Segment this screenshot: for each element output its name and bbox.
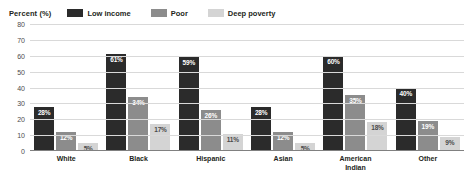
y-axis-tick: 60 — [17, 52, 25, 59]
bar: 18% — [367, 122, 387, 151]
bar-chart: Percent (%) Low incomePoorDeep poverty 2… — [0, 0, 470, 183]
grid-line — [30, 24, 464, 25]
y-axis-tick: 50 — [17, 68, 25, 75]
bar-value-label: 5% — [78, 145, 98, 152]
category-label: Asian — [247, 155, 319, 172]
bar: 17% — [150, 124, 170, 151]
legend-item: Low income — [67, 9, 130, 18]
legend-swatch-2 — [208, 9, 224, 17]
legend-label: Deep poverty — [228, 9, 276, 18]
axis-baseline — [30, 150, 464, 151]
bar-value-label: 19% — [418, 123, 438, 130]
legend-item: Poor — [151, 9, 188, 18]
category-label: Hispanic — [175, 155, 247, 172]
legend-item: Deep poverty — [208, 9, 276, 18]
bar: 34% — [128, 97, 148, 151]
bar-value-label: 28% — [251, 109, 271, 116]
category-label-line: Other — [392, 155, 464, 164]
category-label-line: Indian — [319, 164, 391, 173]
category-label: White — [30, 155, 102, 172]
y-axis-tick: 40 — [17, 84, 25, 91]
bar-value-label: 40% — [396, 90, 416, 97]
bar: 28% — [251, 107, 271, 151]
bar-value-label: 9% — [440, 139, 460, 146]
y-axis-tick: 70 — [17, 36, 25, 43]
chart-header: Percent (%) Low incomePoorDeep poverty — [0, 6, 470, 20]
category-label: AmericanIndian — [319, 155, 391, 172]
legend-swatch-1 — [151, 9, 167, 17]
category-label: Other — [392, 155, 464, 172]
category-label-line: Black — [102, 155, 174, 164]
grid-line — [30, 56, 464, 57]
bar-value-label: 61% — [106, 56, 126, 63]
bar-value-label: 18% — [367, 124, 387, 131]
y-axis-tick: 20 — [17, 116, 25, 123]
y-axis-tick: 10 — [17, 132, 25, 139]
category-label-line: Hispanic — [175, 155, 247, 164]
bar-value-label: 26% — [201, 112, 221, 119]
bar-value-label: 5% — [295, 145, 315, 152]
bar: 9% — [440, 137, 460, 151]
bar-value-label: 28% — [34, 109, 54, 116]
bar: 28% — [34, 107, 54, 151]
category-label-line: Asian — [247, 155, 319, 164]
grid-line — [30, 40, 464, 41]
bar: 11% — [223, 134, 243, 151]
legend-label: Poor — [171, 9, 188, 18]
y-axis-title: Percent (%) — [9, 9, 51, 18]
grid-line — [30, 72, 464, 73]
grid-line — [30, 119, 464, 120]
plot-area: 28%12%5%61%34%17%59%26%11%28%12%5%60%35%… — [30, 24, 464, 151]
category-label: Black — [102, 155, 174, 172]
chart-legend: Low incomePoorDeep poverty — [67, 9, 295, 18]
bar: 26% — [201, 110, 221, 151]
legend-swatch-0 — [67, 9, 83, 17]
bar-value-label: 60% — [323, 58, 343, 65]
grid-line — [30, 135, 464, 136]
y-axis-tick: 30 — [17, 100, 25, 107]
category-axis: WhiteBlackHispanicAsianAmericanIndianOth… — [30, 155, 464, 172]
grid-line — [30, 88, 464, 89]
legend-label: Low income — [87, 9, 130, 18]
bar-value-label: 17% — [150, 126, 170, 133]
bar-value-label: 11% — [223, 136, 243, 143]
bar-value-label: 59% — [179, 59, 199, 66]
y-axis-tick: 80 — [17, 21, 25, 28]
grid-line — [30, 103, 464, 104]
y-axis-tick: 0 — [21, 148, 25, 155]
category-label-line: White — [30, 155, 102, 164]
category-label-line: American — [319, 155, 391, 164]
